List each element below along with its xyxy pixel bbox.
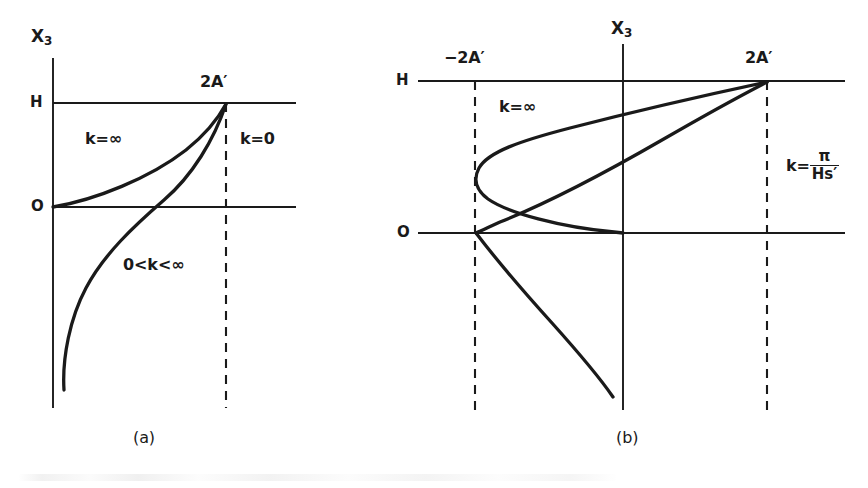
panel-b-label-k-infinity: k=∞ xyxy=(499,99,536,115)
panel-b-value-minus-2a: −2A′ xyxy=(444,50,485,66)
panel-a-axis-label: X3 xyxy=(31,28,52,47)
panel-b-fraction-numerator: π xyxy=(810,149,839,165)
panel-a-axis-label-sub: 3 xyxy=(44,34,52,48)
caption-panel-b: (b) xyxy=(616,430,638,446)
panel-a-label-k-infinity: k=∞ xyxy=(85,131,122,147)
panel-b-value-2a: 2A′ xyxy=(745,50,772,66)
panel-b-label-k-pi-over-hs: k=πHs′ xyxy=(786,150,839,184)
panel-a-tick-h: H xyxy=(30,95,42,110)
panel-b-axis-label: X3 xyxy=(611,20,632,39)
panel-a-axis-label-main: X xyxy=(31,26,44,46)
panel-a-tick-origin: O xyxy=(31,199,44,214)
panel-a-graphics xyxy=(0,0,868,488)
panel-b-tick-h: H xyxy=(396,73,408,88)
panel-b-curve-lower-tail xyxy=(476,233,613,397)
panel-a-label-k-zero: k=0 xyxy=(240,131,275,147)
panel-b-tick-origin: O xyxy=(397,225,410,240)
panel-a-label-k-between: 0<k<∞ xyxy=(123,257,184,273)
panel-b-label-k-lead: k= xyxy=(786,156,810,175)
panel-b-axis-label-main: X xyxy=(611,18,624,38)
panel-b-axis-label-sub: 3 xyxy=(624,26,632,40)
caption-panel-a: (a) xyxy=(133,430,155,446)
scan-artifact-bottom-text xyxy=(18,474,618,481)
panel-b-fraction: πHs′ xyxy=(810,149,839,183)
figure-root: X3 H O 2A′ k=∞ k=0 0<k<∞ X3 H O −2A′ 2A′… xyxy=(0,0,868,488)
panel-b-fraction-denominator: Hs′ xyxy=(810,167,839,183)
panel-a-value-2a: 2A′ xyxy=(200,74,227,90)
